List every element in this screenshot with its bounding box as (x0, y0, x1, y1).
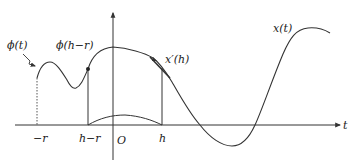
x-curve (88, 28, 330, 146)
label-axis-t: t (343, 120, 347, 131)
shifted-arch-curve (88, 115, 162, 125)
label-x-t: x(t) (273, 23, 292, 34)
delay-differential-diagram: ϕ(t) ϕ(h−r) x′(h) x(t) t −r h−r O h (0, 0, 354, 165)
phi-pointer-arrow (23, 54, 35, 66)
label-x-prime-h: x′(h) (165, 54, 189, 65)
tick-h-minus-r: h−r (79, 133, 101, 144)
tick-minus-r: −r (33, 133, 47, 144)
label-phi-h-minus-r: ϕ(h−r) (56, 40, 94, 51)
tick-origin: O (117, 135, 126, 146)
tick-h: h (159, 133, 166, 144)
label-phi-t: ϕ(t) (7, 40, 28, 51)
phi-curve (37, 62, 88, 88)
diagram-canvas (0, 0, 354, 165)
phi-h-minus-r-dot (86, 67, 90, 71)
